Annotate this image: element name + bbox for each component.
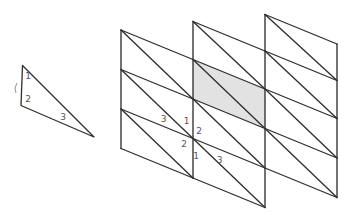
mesh-line [193,22,265,52]
mesh-line [265,15,337,45]
mesh-line [193,178,265,208]
mesh-line [121,30,193,99]
mesh-line [121,70,193,139]
mesh-edge-number: 3 [217,155,223,165]
mesh-line [193,139,265,169]
mesh-line [121,149,193,179]
reference-triangle [21,66,94,138]
mesh-line [265,89,337,158]
mesh-line [265,51,337,81]
mesh-line [265,89,337,119]
figure-canvas: 123312213 [0,0,356,221]
mesh-line [265,51,337,119]
mesh-edge-number: 3 [161,114,167,124]
mesh-edge-number: 2 [196,126,202,136]
reference-edge-number: 1 [25,71,31,81]
mesh-line [265,168,337,198]
mesh-edge-number: 1 [193,151,199,161]
reference-edge-number: 3 [60,112,66,122]
mesh-line [121,109,193,139]
reference-edge-number: 2 [25,94,31,104]
mesh-edge-number: 1 [184,116,190,126]
mesh-line [265,15,337,81]
mesh-line [265,129,337,198]
tick-mark [15,83,17,93]
mesh-edge-number: 2 [181,139,187,149]
mesh-line [121,70,193,100]
triangulation-figure: 123312213 [0,0,356,221]
mesh-line [121,30,193,60]
mesh-line [265,129,337,159]
mesh-line [193,139,265,208]
